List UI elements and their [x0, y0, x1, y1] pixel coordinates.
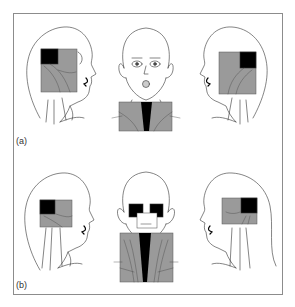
- panel-b-front-outline-box: [137, 213, 157, 228]
- panel-a-left-dark: [41, 49, 58, 64]
- panel-b-left-dark: [40, 200, 55, 214]
- panel-label-b: (b): [16, 280, 27, 290]
- panel-label-a: (a): [16, 136, 27, 146]
- figure-illustration: [0, 0, 295, 307]
- panel-a-front-head: [119, 28, 173, 104]
- panel-b-right-dark: [241, 198, 257, 213]
- panel-a-right-dark: [240, 52, 256, 68]
